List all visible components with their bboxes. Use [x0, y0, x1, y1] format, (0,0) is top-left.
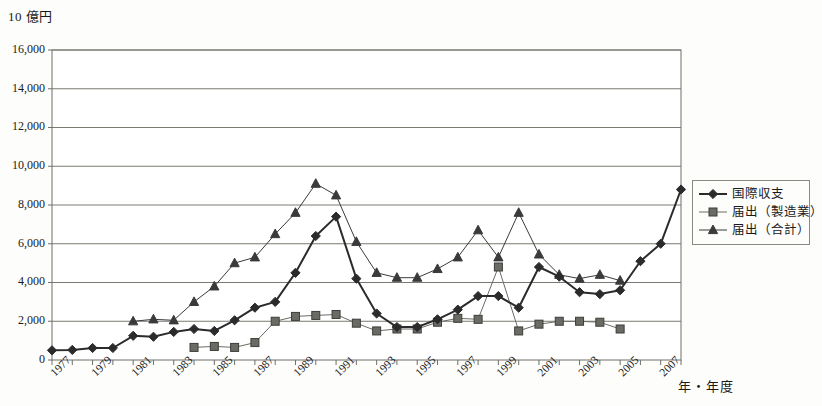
y-axis-tick-label: 14,000	[12, 81, 45, 95]
x-axis-caption: 年・年度	[678, 376, 734, 395]
data-point-marker	[616, 325, 624, 333]
legend-label: 届出（合計）	[732, 223, 810, 237]
data-point-marker	[454, 314, 462, 322]
y-axis-tick-label: 10,000	[12, 158, 45, 172]
data-point-marker	[291, 312, 299, 320]
line-chart: 10 億円 02,0004,0006,0008,00010,00012,0001…	[0, 0, 822, 406]
y-axis-tick-label: 16,000	[12, 42, 45, 56]
legend-item-diamond: 国際収支	[698, 185, 804, 203]
data-point-marker	[190, 343, 198, 351]
legend-label: 届出（製造業）	[732, 205, 822, 219]
data-point-marker	[596, 318, 604, 326]
data-point-marker	[251, 339, 259, 347]
data-point-marker	[332, 310, 340, 318]
data-point-marker	[210, 342, 218, 350]
data-point-marker	[474, 315, 482, 323]
y-axis-tick-label: 6,000	[18, 236, 45, 250]
data-point-marker	[494, 263, 502, 271]
data-point-marker	[373, 327, 381, 335]
diamond-marker-icon	[698, 187, 728, 201]
square-marker-icon	[698, 205, 728, 219]
data-point-marker	[708, 189, 717, 198]
data-point-marker	[709, 208, 717, 216]
data-point-marker	[312, 311, 320, 319]
triangle-marker-icon	[698, 223, 728, 237]
data-point-marker	[271, 317, 279, 325]
data-point-marker	[576, 317, 584, 325]
y-axis-tick-label: 0	[39, 352, 45, 366]
data-point-marker	[352, 319, 360, 327]
data-point-marker	[535, 320, 543, 328]
y-axis-tick-label: 8,000	[18, 197, 45, 211]
data-point-marker	[231, 343, 239, 351]
data-point-marker	[708, 225, 717, 234]
y-axis-tick-label: 2,000	[18, 313, 45, 327]
data-point-marker	[555, 317, 563, 325]
legend-label: 国際収支	[732, 187, 784, 201]
y-axis-tick-label: 12,000	[12, 119, 45, 133]
data-point-marker	[515, 327, 523, 335]
chart-legend: 国際収支届出（製造業）届出（合計）	[692, 180, 810, 245]
legend-item-triangle: 届出（合計）	[698, 221, 804, 239]
legend-item-square: 届出（製造業）	[698, 203, 804, 221]
y-axis-tick-label: 4,000	[18, 274, 45, 288]
